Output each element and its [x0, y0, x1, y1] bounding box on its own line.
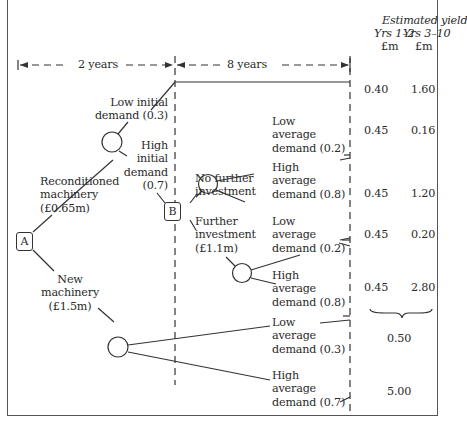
- estimated-yield-title: Estimated yield: [382, 14, 452, 27]
- label-f-high: Highaveragedemand (0.8): [272, 269, 345, 309]
- period-8-years: 8 years: [227, 58, 267, 71]
- yield-2-y310: 0.16: [411, 124, 435, 137]
- yield-1-y310: 1.60: [411, 83, 435, 96]
- yield-5-y12: 0.45: [364, 281, 388, 294]
- label-n-low: Lowaveragedemand (0.3): [272, 316, 345, 356]
- unit-2: £m: [415, 40, 432, 53]
- yield-3-y12: 0.45: [364, 187, 388, 200]
- label-nf-high: Highaveragedemand (0.8): [272, 161, 345, 201]
- yield-4-y310: 0.20: [411, 228, 435, 241]
- decision-node-b: B: [164, 202, 181, 221]
- yield-4-y12: 0.45: [364, 228, 388, 241]
- yield-3-y310: 1.20: [411, 187, 435, 200]
- label-low-initial: Low initialdemand (0.3): [94, 96, 168, 123]
- label-high-initial: Highinitialdemand(0.7): [120, 139, 168, 192]
- decision-node-a: A: [16, 232, 33, 251]
- yield-new-low: 0.50: [387, 332, 411, 345]
- label-n-high: Highaveragedemand (0.7): [272, 369, 345, 409]
- label-f-low: Lowaveragedemand (0.2): [272, 215, 345, 255]
- unit-1: £m: [381, 40, 398, 53]
- label-new-machinery: Newmachinery(£1.5m): [40, 273, 100, 313]
- yield-2-y12: 0.45: [364, 124, 388, 137]
- col-yrs-3-10: Yrs 3–10: [403, 27, 450, 40]
- label-reconditioned: Reconditionedmachinery(£0.65m): [40, 175, 119, 215]
- label-further: Furtherinvestment(£1.1m): [195, 215, 256, 255]
- yield-new-high: 5.00: [387, 385, 411, 398]
- label-nf-low: Lowaveragedemand (0.2): [272, 115, 345, 155]
- yield-5-y310: 2.80: [411, 281, 435, 294]
- label-no-further: No furtherinvestment: [195, 172, 256, 199]
- yield-1-y12: 0.40: [364, 83, 388, 96]
- period-2-years: 2 years: [78, 58, 118, 71]
